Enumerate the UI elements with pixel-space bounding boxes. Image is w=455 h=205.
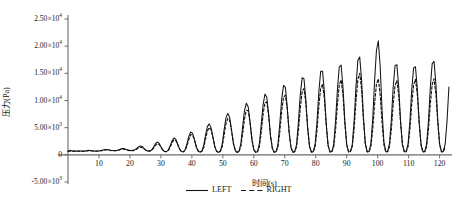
y-axis-title-text: 压力(Pa) <box>0 54 15 150</box>
x-axis-tick-label: 20 <box>118 159 142 168</box>
x-axis-tick-label: 80 <box>304 159 328 168</box>
x-axis-tick-label: 10 <box>87 159 111 168</box>
x-axis-tick-label: 70 <box>273 159 297 168</box>
series-line-right <box>68 73 445 152</box>
x-axis-tick-label: 90 <box>335 159 359 168</box>
y-axis-tick-label: -5.00×103 <box>32 177 62 186</box>
chart-figure: 压力(Pa) 时间(s) -5.00×10305.00×1031.00×1041… <box>0 0 455 205</box>
y-axis-tick-label: 2.50×104 <box>34 14 62 23</box>
legend-item-right: RIGHT <box>241 186 292 194</box>
legend-label-right: RIGHT <box>267 186 292 194</box>
legend-item-left: LEFT <box>186 186 232 194</box>
x-axis-tick-label: 30 <box>149 159 173 168</box>
legend-swatch-dashed-icon <box>241 187 263 194</box>
series-line-left <box>68 41 449 153</box>
legend-label-left: LEFT <box>212 186 232 194</box>
legend-swatch-solid-icon <box>186 187 208 194</box>
x-axis-tick-label: 100 <box>366 159 390 168</box>
x-axis-tick-label: 120 <box>428 159 452 168</box>
chart-legend: LEFT RIGHT <box>186 186 292 194</box>
x-axis-tick-label: 60 <box>242 159 266 168</box>
y-axis-title: 压力(Pa) <box>0 54 15 150</box>
y-axis-tick-label: 5.00×103 <box>34 123 62 132</box>
x-axis-tick-label: 50 <box>211 159 235 168</box>
x-axis-tick-label: 40 <box>180 159 204 168</box>
x-axis-tick-label: 110 <box>397 159 421 168</box>
y-axis-tick-label: 1.50×104 <box>34 68 62 77</box>
y-axis-tick-label: 2.00×104 <box>34 41 62 50</box>
chart-plot-area <box>0 0 455 205</box>
y-axis-tick-label: 1.00×104 <box>34 96 62 105</box>
y-axis-tick-label: 0 <box>58 150 62 159</box>
